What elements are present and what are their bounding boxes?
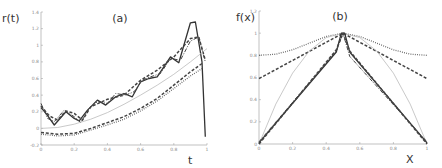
chart-b-y-ticks: 00.20.40.60.811.2: [250, 9, 261, 147]
chart-b-xlabel: X: [406, 153, 414, 166]
chart-b-x-ticks: 00.20.40.60.81: [258, 142, 429, 151]
series-dotted-flat: [259, 33, 427, 55]
series-dash-dot-triangle: [259, 33, 427, 142]
y-tick-label: 1: [254, 31, 257, 36]
figure: -0.200.20.40.60.811.21.4 00.20.40.60.81 …: [0, 0, 442, 168]
x-tick-label: 0: [40, 147, 43, 152]
series-dashed-lower: [41, 64, 202, 135]
chart-b-ylabel: f(x): [236, 11, 255, 24]
y-tick-label: 0.2: [32, 109, 39, 114]
y-tick-label: -0.2: [30, 143, 39, 148]
chart-a-title: (a): [112, 12, 127, 25]
y-tick-label: 1: [36, 43, 39, 48]
x-tick-label: 0: [258, 146, 261, 151]
x-tick-label: 0.8: [170, 147, 177, 152]
x-tick-label: 1: [426, 146, 429, 151]
y-tick-label: 0.4: [32, 93, 39, 98]
series-light-gray-solid: [41, 49, 207, 129]
y-tick-label: 1.2: [32, 26, 39, 31]
chart-a-series: [41, 22, 207, 137]
chart-a: -0.200.20.40.60.811.21.4 00.20.40.60.81 …: [2, 10, 209, 168]
x-tick-label: 0.4: [323, 146, 330, 151]
chart-b-series: [259, 33, 427, 144]
x-tick-label: 0.8: [390, 146, 397, 151]
x-tick-label: 1: [206, 147, 209, 152]
y-tick-label: 0.2: [250, 119, 257, 124]
x-tick-label: 0.6: [137, 147, 144, 152]
chart-a-x-ticks: 00.20.40.60.81: [40, 143, 209, 152]
chart-a-xlabel: t: [188, 154, 193, 167]
series-dashed-thick: [41, 37, 205, 120]
chart-b: 00.20.40.60.811.2 00.20.40.60.81 (b) f(x…: [236, 9, 429, 167]
series-dashed-triangle-high: [259, 33, 427, 78]
y-tick-label: 0.8: [250, 53, 257, 58]
chart-b-title: (b): [332, 10, 348, 23]
x-tick-label: 0.2: [289, 146, 296, 151]
series-light-gray-parabola: [259, 33, 427, 144]
y-tick-label: 0.4: [250, 97, 257, 102]
y-tick-label: 0.8: [32, 59, 39, 64]
x-tick-label: 0.4: [104, 147, 111, 152]
y-tick-label: 1.4: [32, 10, 39, 15]
y-tick-label: 0.6: [250, 75, 257, 80]
x-tick-label: 0.6: [356, 146, 363, 151]
chart-a-ylabel: r(t): [2, 12, 19, 25]
x-tick-label: 0.2: [71, 147, 78, 152]
y-tick-label: 0: [36, 126, 39, 131]
y-tick-label: 0.6: [32, 76, 39, 81]
